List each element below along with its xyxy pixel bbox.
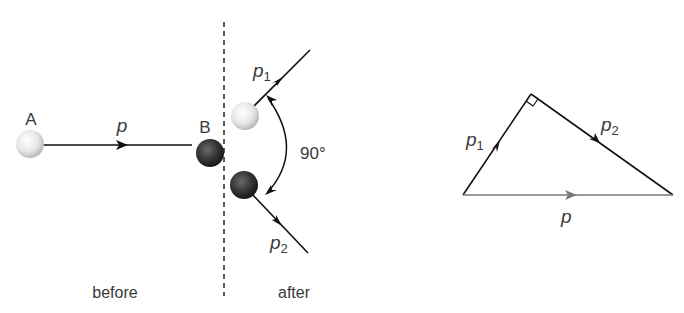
ball-a-after — [231, 102, 259, 130]
after-panel: p1 p2 90° after — [230, 50, 326, 301]
ball-b-label: B — [199, 118, 210, 137]
arrowhead-icon — [266, 95, 277, 106]
after-label: after — [278, 284, 311, 301]
ball-a — [16, 130, 44, 158]
side-p2 — [531, 94, 673, 195]
before-label: before — [92, 284, 137, 301]
vector-triangle: p1 p2 p — [463, 94, 673, 227]
side-p1-label: p1 — [465, 129, 484, 153]
arrowhead-icon — [265, 185, 277, 195]
outgoing-momentum-1-label: p1 — [252, 60, 271, 84]
ball-a-label: A — [25, 110, 37, 129]
arrowhead-icon — [589, 133, 600, 143]
side-p-label: p — [560, 206, 572, 227]
collision-diagram: A p B before p1 p2 90° after p1 — [0, 0, 684, 313]
arrowhead-icon — [272, 77, 283, 86]
outgoing-momentum-2-label: p2 — [269, 232, 288, 256]
before-panel: A p B before — [16, 110, 224, 301]
side-p2-label: p2 — [600, 114, 619, 138]
angle-label: 90° — [300, 144, 326, 163]
ball-b — [196, 139, 224, 167]
angle-arc — [268, 98, 287, 192]
ball-b-after — [230, 171, 258, 199]
incoming-momentum-label: p — [116, 115, 128, 136]
